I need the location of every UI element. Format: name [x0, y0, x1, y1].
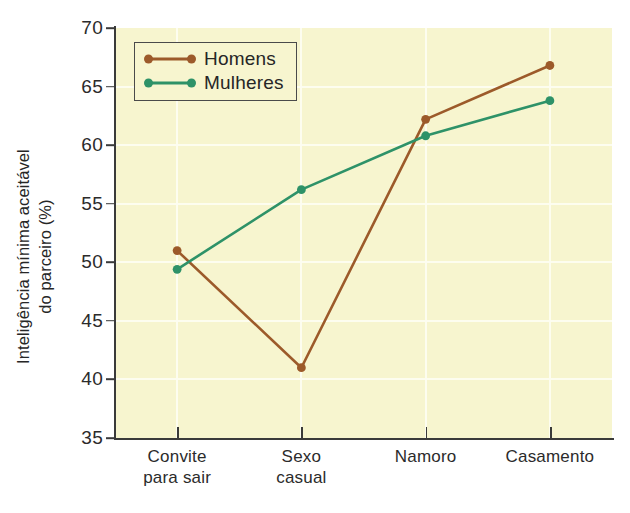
legend-label-homens: Homens [204, 48, 276, 70]
y-tick-label: 65 [57, 76, 103, 98]
legend-swatch-homens [144, 52, 196, 66]
y-tick-mark [106, 27, 116, 29]
x-tick-mark [177, 427, 179, 439]
y-tick-mark [106, 144, 116, 146]
y-tick-label: 55 [57, 193, 103, 215]
gridline-horizontal [115, 378, 612, 380]
y-tick-mark [106, 437, 116, 439]
gridline-vertical [300, 28, 302, 438]
gridline-horizontal [115, 203, 612, 205]
x-tick-label: Sexo casual [276, 446, 326, 489]
y-tick-label: 70 [57, 17, 103, 39]
y-tick-label: 60 [57, 134, 103, 156]
y-axis-label-line-2: do parceiro (%) [35, 199, 57, 313]
x-tick-label: Casamento [506, 446, 595, 467]
chart-figure: Inteligência mínima aceitável do parceir… [0, 0, 630, 513]
gridline-vertical [549, 28, 551, 438]
y-tick-label: 50 [57, 251, 103, 273]
y-tick-label: 40 [57, 368, 103, 390]
y-tick-mark [106, 86, 116, 88]
x-tick-mark [426, 427, 428, 439]
y-tick-mark [106, 203, 116, 205]
x-tick-label: Convite para sair [143, 446, 211, 489]
x-tick-mark [301, 427, 303, 439]
legend-item-mulheres: Mulheres [144, 72, 284, 94]
x-axis-line [114, 438, 614, 440]
legend-item-homens: Homens [144, 48, 284, 70]
x-tick-label: Namoro [395, 446, 457, 467]
x-tick-mark [550, 427, 552, 439]
y-tick-label: 45 [57, 310, 103, 332]
gridline-horizontal [115, 320, 612, 322]
y-tick-mark [106, 379, 116, 381]
y-tick-mark [106, 261, 116, 263]
y-tick-mark [106, 320, 116, 322]
y-axis-label-line-1: Inteligência mínima aceitável [13, 149, 35, 364]
gridline-horizontal [115, 261, 612, 263]
y-tick-label: 35 [57, 427, 103, 449]
gridline-horizontal [115, 144, 612, 146]
legend-swatch-mulheres [144, 76, 196, 90]
gridline-vertical [425, 28, 427, 438]
legend-label-mulheres: Mulheres [204, 72, 284, 94]
legend: Homens Mulheres [134, 42, 297, 101]
